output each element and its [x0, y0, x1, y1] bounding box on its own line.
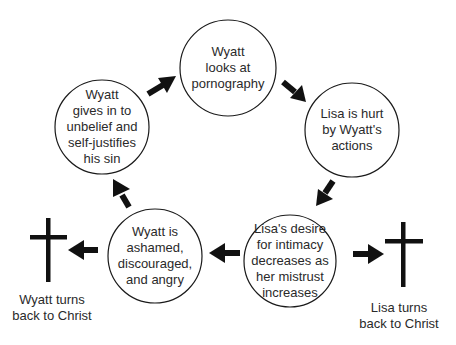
arrow-unbelief-to-pornography: [148, 76, 176, 94]
arrow-pornography-to-hurt: [283, 82, 306, 102]
arrow-hurt-to-desire: [316, 181, 333, 206]
arrow-desire-to-lisa-cross: [353, 244, 384, 264]
node-pornography: Wyatt looks at pornography: [184, 28, 272, 108]
node-wyatt-unbelief: Wyatt gives in to unbelief and self-just…: [58, 86, 146, 168]
arrow-ashamed-to-wyatt-cross: [68, 240, 98, 260]
arrow-desire-to-ashamed: [209, 243, 240, 263]
cross-icon: [30, 218, 67, 282]
node-wyatt-ashamed: Wyatt is ashamed, discouraged, and angry: [110, 216, 200, 296]
node-lisa-hurt: Lisa is hurt by Wyatt's actions: [308, 90, 396, 170]
lisa-cross-caption: Lisa turns back to Christ: [349, 300, 449, 332]
cross-icon: [385, 222, 423, 287]
wyatt-cross-caption: Wyatt turns back to Christ: [2, 292, 102, 324]
arrow-ashamed-to-unbelief: [113, 179, 130, 207]
node-lisa-desire: Lisa's desire for intimacy decreases as …: [246, 220, 334, 302]
cycle-diagram: Wyatt looks at pornography Lisa is hurt …: [0, 0, 456, 345]
